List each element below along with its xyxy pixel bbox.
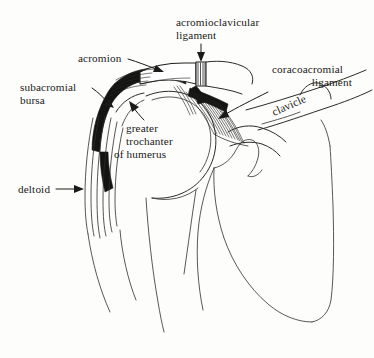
label-deltoid: deltoid <box>18 183 84 195</box>
deltoid-leader <box>56 185 84 193</box>
label-acromioclavicular-ligament: acromioclavicular ligament <box>176 16 259 62</box>
anatomical-figure: acromioclavicular ligament acromion cora… <box>0 0 374 358</box>
coracoacromial-ligament-line2: ligament <box>312 76 353 88</box>
deltoid-label-text: deltoid <box>18 183 50 195</box>
acromioclavicular-ligament-leader <box>197 44 205 62</box>
subacromial-bursa-line2: bursa <box>20 94 45 106</box>
coracoacromial-ligament-line1: coracoacromial <box>272 63 343 75</box>
clavicle-label-text: clavicle <box>270 92 308 118</box>
greater-trochanter-line2: trochanter <box>126 135 173 147</box>
greater-trochanter-line3: of humerus <box>114 148 166 160</box>
acromion-label-text: acromion <box>78 52 122 64</box>
acromioclavicular-ligament-line1: acromioclavicular <box>176 16 259 28</box>
clavicle-bone <box>246 70 372 130</box>
subacromial-bursa-line1: subacromial <box>20 81 76 93</box>
distal-clavicle <box>206 61 253 94</box>
greater-trochanter-line1: greater <box>126 122 158 134</box>
humerus-shaft <box>146 190 196 332</box>
label-subacromial-bursa: subacromial bursa <box>20 81 114 108</box>
acromioclavicular-ligament-line2: ligament <box>176 29 217 41</box>
scapula-outline <box>197 120 333 322</box>
label-clavicle: clavicle <box>270 92 308 118</box>
